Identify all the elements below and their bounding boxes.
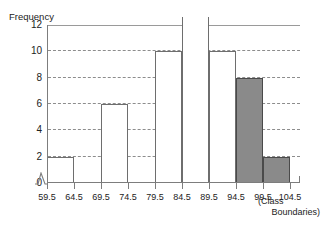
x-tick-label-69.5: 69.5 (92, 193, 110, 202)
x-tick-89.5 (209, 183, 210, 189)
axis-break-zigzag-icon (35, 171, 51, 184)
y-tick-label-10: 10 (31, 46, 42, 56)
bar-79-5-84-5 (155, 51, 182, 183)
y-tick-label-4: 4 (36, 125, 42, 135)
x-tick-label-84.5: 84.5 (173, 193, 191, 202)
y-tick-label-8: 8 (36, 73, 42, 83)
x-axis-caption-line1: (Class (258, 196, 284, 206)
x-axis-caption-line2: Boundaries) (258, 207, 322, 218)
plot-area: 024681012 59.564.569.574.579.584.589.594… (47, 25, 290, 183)
x-tick-label-64.5: 64.5 (65, 193, 83, 202)
y-axis-line (47, 25, 48, 183)
x-axis-end-tick (299, 176, 300, 183)
x-axis-caption: (Class Boundaries) (258, 196, 322, 218)
x-tick-69.5 (101, 183, 102, 189)
x-axis-line (47, 182, 290, 183)
bar-69-5-74-5 (101, 104, 128, 183)
x-tick-label-59.5: 59.5 (38, 193, 56, 202)
x-tick-64.5 (74, 183, 75, 189)
x-tick-94.5 (236, 183, 237, 189)
bar-59-5-64-5 (47, 157, 74, 183)
x-tick-104.5 (290, 183, 291, 189)
x-tick-label-89.5: 89.5 (200, 193, 218, 202)
x-tick-79.5 (155, 183, 156, 189)
x-tick-84.5 (182, 183, 183, 189)
bar-84-5-89-5 (182, 17, 209, 183)
bar-99-5-104-5 (263, 157, 290, 183)
histogram-figure: Frequency 024681012 59.564.569.574.579.5… (0, 0, 322, 229)
y-tick-label-12: 12 (31, 20, 42, 30)
x-tick-74.5 (128, 183, 129, 189)
x-tick-label-79.5: 79.5 (146, 193, 164, 202)
bar-94-5-99-5 (236, 78, 263, 183)
x-tick-label-94.5: 94.5 (227, 193, 245, 202)
y-tick-label-2: 2 (36, 152, 42, 162)
y-tick-label-6: 6 (36, 99, 42, 109)
x-tick-label-74.5: 74.5 (119, 193, 137, 202)
x-tick-99.5 (263, 183, 264, 189)
plot-top-rule (47, 25, 300, 26)
bar-89-5-94-5 (209, 51, 236, 183)
